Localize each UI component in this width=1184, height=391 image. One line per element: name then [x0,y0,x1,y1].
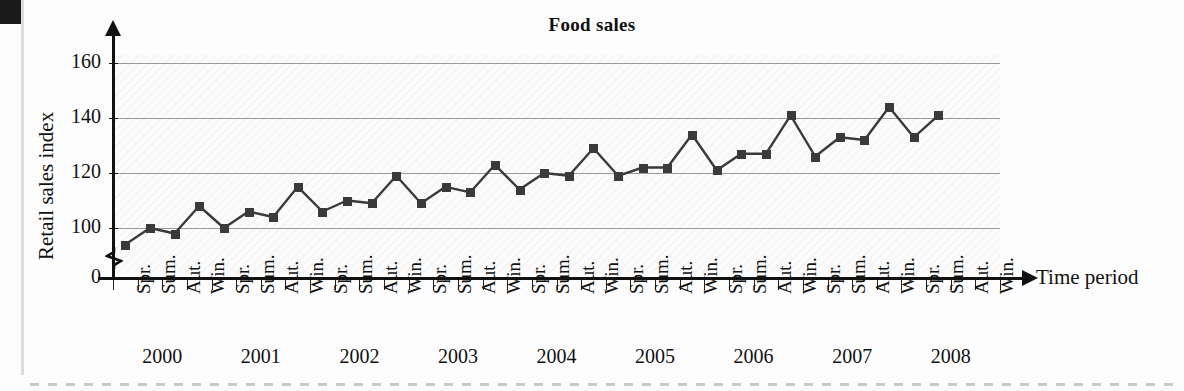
x-year-label: 2004 [527,345,587,368]
data-point-marker [589,144,598,153]
x-quarter-label: Aut. [183,261,205,294]
x-quarter-label: Aut. [478,261,500,294]
x-quarter-label: Sum. [848,254,870,294]
data-point-marker [516,186,525,195]
x-quarter-label: Spr. [528,264,550,294]
x-quarter-label: Spr. [922,264,944,294]
y-tick-label: 0 [55,265,101,288]
data-point-marker [737,150,746,159]
x-quarter-label: Aut. [380,261,402,294]
y-tick-mark [109,118,118,119]
data-point-marker [811,153,820,162]
x-quarter-label: Aut. [577,261,599,294]
x-year-label: 2000 [132,345,192,368]
data-point-marker [245,208,254,217]
gridline [113,173,1000,174]
x-year-label: 2002 [329,345,389,368]
data-point-marker [565,172,574,181]
x-quarter-label: Spr. [626,264,648,294]
x-quarter-label: Sum. [454,254,476,294]
x-quarter-label: Win. [503,257,525,294]
data-point-marker [121,241,130,250]
data-point-marker [343,197,352,206]
data-point-marker [688,131,697,140]
x-quarter-label: Aut. [971,261,993,294]
x-quarter-label: Win. [897,257,919,294]
data-point-marker [860,136,869,145]
data-point-marker [639,164,648,173]
data-point-marker [910,133,919,142]
x-quarter-label: Sum. [651,254,673,294]
x-quarter-label: Sum. [158,254,180,294]
data-point-marker [713,166,722,175]
food-sales-line-chart: Food sales 1601401201000 Retail sales in… [0,0,1184,391]
y-axis-break-icon [105,247,123,269]
data-point-marker [836,133,845,142]
x-quarter-label: Aut. [675,261,697,294]
x-quarter-label: Sum. [946,254,968,294]
data-point-marker [146,224,155,233]
x-quarter-label: Win. [207,257,229,294]
y-tick-label: 140 [55,105,101,128]
x-quarter-label: Win. [601,257,623,294]
data-point-marker [885,103,894,112]
x-quarter-label: Spr. [330,264,352,294]
x-quarter-label: Win. [996,257,1018,294]
data-point-marker [787,111,796,120]
data-point-marker [318,208,327,217]
x-quarter-label: Spr. [823,264,845,294]
x-quarter-label: Win. [799,257,821,294]
x-quarter-label: Win. [306,257,328,294]
y-axis-title: Retail sales index [34,112,59,260]
data-point-marker [294,183,303,192]
x-year-label: 2005 [625,345,685,368]
x-quarter-label: Sum. [355,254,377,294]
gridline [113,63,1000,64]
x-quarter-label: Spr. [429,264,451,294]
data-point-marker [417,199,426,208]
data-point-marker [220,224,229,233]
data-point-marker [466,188,475,197]
gridline [113,118,1000,119]
y-tick-mark [109,63,118,64]
y-tick-mark [109,173,118,174]
x-quarter-label: Spr. [725,264,747,294]
x-quarter-label: Aut. [774,261,796,294]
data-point-marker [934,111,943,120]
y-tick-label: 160 [55,50,101,73]
x-quarter-label: Win. [700,257,722,294]
x-quarter-label: Sum. [749,254,771,294]
x-axis-title: Time period [1036,265,1138,290]
data-point-marker [171,230,180,239]
y-tick-label: 120 [55,160,101,183]
x-quarter-label: Spr. [133,264,155,294]
data-point-marker [442,183,451,192]
y-axis-line [112,32,115,280]
data-point-marker [392,172,401,181]
x-quarter-label: Sum. [257,254,279,294]
y-axis-arrow-icon [105,20,121,36]
chart-title: Food sales [0,14,1184,36]
data-point-marker [663,164,672,173]
data-point-marker [491,161,500,170]
data-point-marker [195,202,204,211]
y-tick-label: 100 [55,215,101,238]
x-tick-mark [113,280,114,290]
x-year-label: 2003 [428,345,488,368]
x-year-label: 2001 [231,345,291,368]
gridline [113,228,1000,229]
y-tick-mark [109,228,118,229]
page-canvas: Food sales 1601401201000 Retail sales in… [0,0,1184,391]
x-year-label: 2006 [724,345,784,368]
x-year-label: 2008 [921,345,981,368]
plot-area [113,55,1000,273]
data-point-marker [762,150,771,159]
data-point-marker [368,199,377,208]
data-point-marker [540,169,549,178]
x-quarter-label: Aut. [872,261,894,294]
data-point-marker [269,213,278,222]
x-quarter-label: Aut. [281,261,303,294]
data-point-marker [614,172,623,181]
x-year-label: 2007 [822,345,882,368]
x-quarter-label: Sum. [552,254,574,294]
